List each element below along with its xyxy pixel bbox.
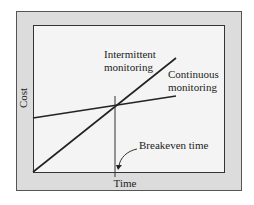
intermittent-label: Intermittent monitoring <box>104 48 156 74</box>
x-axis-label: Time <box>110 177 140 189</box>
intermittent-label-line1: Intermittent <box>104 48 156 61</box>
intermittent-label-line2: monitoring <box>104 61 156 74</box>
breakeven-arrow <box>119 149 137 166</box>
y-axis-label: Cost <box>17 83 29 113</box>
arrowhead-icon <box>116 165 122 170</box>
breakeven-label: Breakeven time <box>139 139 208 152</box>
chart-lines <box>0 0 254 205</box>
continuous-label: Continuous monitoring <box>168 68 219 94</box>
continuous-label-line2: monitoring <box>168 81 219 94</box>
continuous-label-line1: Continuous <box>168 68 219 81</box>
